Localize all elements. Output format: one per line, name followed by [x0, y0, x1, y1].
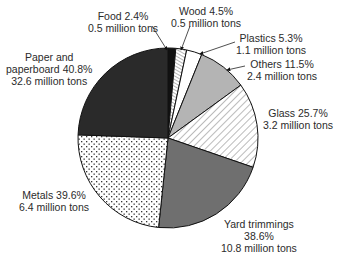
metals-percent: Metals 39.6%: [19, 189, 89, 201]
yard-label: Yard trimmings 38.6% 10.8 million tons: [221, 218, 297, 254]
food-label: Food 2.4% 0.5 million tons: [88, 10, 158, 34]
wood-percent: Wood 4.5%: [171, 5, 241, 17]
wood-label: Wood 4.5% 0.5 million tons: [171, 5, 241, 29]
paper-label: Paper and paperboard 40.8% 32.6 million …: [6, 51, 92, 87]
glass-percent: Glass 25.7%: [263, 107, 333, 119]
wood-leader: [181, 26, 190, 50]
yard-name: Yard trimmings: [221, 218, 297, 230]
paper-tons: 32.6 million tons: [6, 75, 92, 87]
others-percent: Others 11.5%: [247, 58, 317, 70]
plastics-tons: 1.1 million tons: [236, 44, 306, 56]
metals-tons: 6.4 million tons: [19, 201, 89, 213]
pie-slices: [78, 48, 258, 228]
glass-label: Glass 25.7% 3.2 million tons: [263, 107, 333, 131]
plastics-label: Plastics 5.3% 1.1 million tons: [236, 32, 306, 56]
wood-tons: 0.5 million tons: [171, 17, 241, 29]
glass-tons: 3.2 million tons: [263, 119, 333, 131]
others-leader: [227, 66, 245, 70]
food-tons: 0.5 million tons: [88, 22, 158, 34]
plastics-percent: Plastics 5.3%: [236, 32, 306, 44]
slice-metals: [78, 135, 168, 228]
yard-percent: 38.6%: [221, 230, 297, 242]
paper-name: Paper and: [6, 51, 92, 63]
metals-label: Metals 39.6% 6.4 million tons: [19, 189, 89, 213]
others-tons: 2.4 million tons: [247, 70, 317, 82]
paper-percent: paperboard 40.8%: [6, 63, 92, 75]
food-percent: Food 2.4%: [88, 10, 158, 22]
plastics-leader: [200, 42, 235, 54]
others-label: Others 11.5% 2.4 million tons: [247, 58, 317, 82]
yard-tons: 10.8 million tons: [221, 242, 297, 254]
